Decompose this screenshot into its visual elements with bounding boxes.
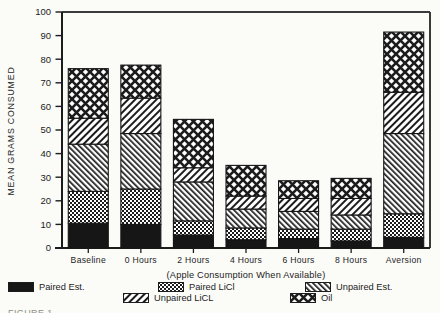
bar-segment-solid — [331, 241, 371, 248]
bar-segment-dots — [226, 228, 266, 240]
category-label: 6 Hours — [282, 255, 314, 265]
y-tick-label: 10 — [40, 219, 51, 230]
y-tick-label: 30 — [40, 172, 51, 183]
bar-segment-diamond — [384, 32, 424, 92]
bar-segment-hatch-back — [279, 198, 319, 211]
forward-hatch-swatch-icon — [305, 282, 331, 292]
y-tick-label: 80 — [40, 54, 51, 65]
y-axis-title: MEAN GRAMS CONSUMED — [6, 66, 16, 195]
legend-item-unpaired-est: Unpaired Est. — [305, 282, 392, 292]
category-label: 4 Hours — [230, 255, 262, 265]
bar-segment-hatch-back — [68, 118, 108, 144]
legend-label: Paired Est. — [39, 282, 84, 292]
bar-segment-hatch-fwd — [68, 144, 108, 191]
category-label: 8 Hours — [335, 255, 367, 265]
bar-segment-hatch-fwd — [279, 211, 319, 229]
bar-segment-hatch-fwd — [331, 215, 371, 229]
bar-segment-hatch-back — [173, 168, 213, 182]
x-axis-title: (Apple Consumption When Available) — [167, 270, 326, 280]
bar-segment-solid — [226, 240, 266, 248]
legend-item-paired-est: Paired Est. — [8, 282, 84, 292]
bar-segment-hatch-back — [121, 98, 161, 133]
bars — [68, 32, 423, 248]
legend-item-paired-licl: Paired LiCl — [158, 282, 234, 292]
bar-segment-solid — [173, 235, 213, 248]
legend-item-unpaired-licl: Unpaired LiCL — [123, 293, 213, 303]
bar-segment-hatch-back — [226, 196, 266, 209]
bar-segment-hatch-fwd — [173, 182, 213, 221]
stacked-bar-chart: MEAN GRAMS CONSUMED 01020304050607080901… — [0, 0, 440, 280]
y-tick-label: 50 — [40, 124, 51, 135]
category-label: Baseline — [71, 255, 106, 265]
diamond-swatch-icon — [290, 293, 316, 303]
y-tick-label: 40 — [40, 148, 51, 159]
bar-segment-diamond — [68, 69, 108, 119]
bar-segment-dots — [121, 189, 161, 224]
y-tick-label: 100 — [35, 6, 51, 17]
bar-segment-hatch-back — [384, 92, 424, 133]
bar-segment-solid — [68, 223, 108, 248]
legend-label: Oil — [321, 293, 332, 303]
bar-segment-hatch-fwd — [384, 134, 424, 214]
legend-item-oil: Oil — [290, 293, 332, 303]
y-tick-label: 70 — [40, 77, 51, 88]
bar-segment-dots — [279, 229, 319, 238]
y-tick-label: 60 — [40, 101, 51, 112]
legend-label: Unpaired Est. — [336, 282, 392, 292]
bar-segment-dots — [384, 214, 424, 238]
bar-segment-dots — [68, 191, 108, 223]
bar-segment-diamond — [279, 181, 319, 199]
bar-segment-diamond — [331, 178, 371, 198]
y-tick-label: 0 — [46, 242, 51, 253]
bar-segment-diamond — [173, 119, 213, 167]
y-axis-ticks: 0102030405060708090100 — [35, 6, 62, 253]
solid-swatch-icon — [8, 282, 34, 292]
bar-segment-hatch-back — [331, 198, 371, 215]
figure-page: MEAN GRAMS CONSUMED 01020304050607080901… — [0, 0, 440, 313]
bar-segment-solid — [279, 239, 319, 248]
dots-swatch-icon — [158, 282, 184, 292]
bar-segment-solid — [121, 224, 161, 248]
bar-segment-dots — [331, 229, 371, 241]
bar-segment-hatch-fwd — [121, 134, 161, 189]
bar-segment-solid — [384, 237, 424, 248]
bar-segment-dots — [173, 221, 213, 235]
bar-segment-diamond — [121, 65, 161, 98]
legend-label: Unpaired LiCL — [154, 293, 213, 303]
y-tick-label: 90 — [40, 30, 51, 41]
y-tick-label: 20 — [40, 195, 51, 206]
bar-segment-hatch-fwd — [226, 209, 266, 228]
bar-segment-diamond — [226, 165, 266, 196]
figure-caption-fragment: FIGURE 1. — [8, 308, 268, 313]
category-label: 0 Hours — [125, 255, 157, 265]
category-label: 2 Hours — [177, 255, 209, 265]
legend-label: Paired LiCl — [189, 282, 234, 292]
back-hatch-swatch-icon — [123, 293, 149, 303]
x-axis-ticks-and-labels: Baseline0 Hours2 Hours4 Hours6 Hours8 Ho… — [71, 248, 422, 265]
category-label: Aversion — [386, 255, 422, 265]
